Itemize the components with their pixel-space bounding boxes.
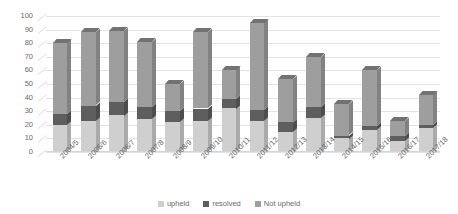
bar-segment-not-upheld[interactable] [222,70,237,99]
bar-group[interactable] [390,16,405,152]
y-axis-tick-label: 50 [25,80,33,88]
bar-segment-resolved[interactable] [222,99,237,109]
bar-segment-face [222,70,237,99]
bar-segment-face [250,110,265,121]
bar-segment-not-upheld[interactable] [250,23,265,110]
bar-segment-side [124,27,128,101]
bar-segment-face [53,114,68,125]
bar-segment-resolved[interactable] [109,102,124,116]
bar-segment-not-upheld[interactable] [419,95,434,125]
bar-segment-resolved[interactable] [53,114,68,125]
bar-segment-resolved[interactable] [137,107,152,119]
bar-segment-not-upheld[interactable] [109,31,124,102]
y-axis-tick-label: 70 [25,53,33,61]
bar-segment-face [165,84,180,111]
bar-segment-not-upheld[interactable] [278,79,293,123]
bar-group[interactable] [334,16,349,152]
bar-group[interactable] [109,16,124,152]
bar-segment-face [419,95,434,125]
bar-segment-side [152,38,156,107]
legend-item[interactable]: resolved [203,199,240,208]
bar-stack [362,16,377,152]
bar-segment-face [278,122,293,132]
bar-stack [137,16,152,152]
y-axis-tick-label: 0 [29,148,33,156]
bar-series-container [46,16,440,152]
legend-swatch [158,201,164,207]
bar-segment-resolved[interactable] [278,122,293,132]
bar-top-cap [278,75,296,79]
bar-segment-not-upheld[interactable] [53,43,68,114]
bar-segment-resolved[interactable] [419,125,434,128]
bar-stack [165,16,180,152]
legend-item[interactable]: Not upheld [255,199,300,208]
bar-segment-not-upheld[interactable] [334,104,349,135]
bar-group[interactable] [193,16,208,152]
bar-segment-face [390,121,405,136]
bar-segment-resolved[interactable] [362,126,377,130]
y-axis-tick-label: 30 [25,107,33,115]
bar-stack [419,16,434,152]
bar-segment-not-upheld[interactable] [390,121,405,136]
bar-stack [278,16,293,152]
bar-segment-side [180,80,184,111]
bar-group[interactable] [362,16,377,152]
bar-segment-side [67,40,71,114]
bar-group[interactable] [137,16,152,152]
bar-segment-face [306,57,321,107]
bar-segment-not-upheld[interactable] [165,84,180,111]
bar-stack [222,16,237,152]
bar-segment-face [334,104,349,135]
bar-segment-not-upheld[interactable] [306,57,321,107]
bar-segment-face [81,106,96,121]
bar-segment-face [278,79,293,123]
bar-segment-face [362,126,377,130]
bar-stack [390,16,405,152]
bar-top-cap [419,91,437,95]
bar-segment-face [137,107,152,119]
y-axis-tick-label: 20 [25,121,33,129]
bar-segment-resolved[interactable] [193,109,208,121]
bar-segment-not-upheld[interactable] [81,32,96,105]
bar-segment-face [306,107,321,118]
legend-label: Not upheld [264,199,300,208]
bar-segment-resolved[interactable] [250,110,265,121]
bar-segment-side [321,53,325,107]
bar-segment-resolved[interactable] [334,136,349,139]
bar-group[interactable] [53,16,68,152]
bar-segment-not-upheld[interactable] [137,42,152,107]
bar-segment-side [236,67,240,99]
bar-segment-resolved[interactable] [165,111,180,122]
bar-segment-face [193,32,208,108]
stacked-bar-chart: 0102030405060708090100 2004/52005/62006/… [0,0,458,214]
bar-group[interactable] [222,16,237,152]
bar-segment-resolved[interactable] [81,106,96,121]
bar-segment-resolved[interactable] [306,107,321,118]
bar-group[interactable] [419,16,434,152]
bar-segment-side [96,29,100,106]
bar-segment-side [433,91,437,125]
legend-item[interactable]: upheld [158,199,190,208]
y-axis-tick-label: 90 [25,26,33,34]
bar-group[interactable] [306,16,321,152]
bar-segment-face [109,31,124,102]
y-axis-tick-label: 40 [25,94,33,102]
bar-segment-side [293,75,297,122]
legend-label: upheld [167,199,190,208]
bar-segment-not-upheld[interactable] [362,70,377,126]
bar-group[interactable] [165,16,180,152]
bar-segment-side [208,29,212,109]
chart-legend: upheldresolvedNot upheld [0,199,458,208]
bar-segment-face [250,23,265,110]
y-axis-tick-label: 60 [25,66,33,74]
bar-group[interactable] [278,16,293,152]
x-axis: 2004/52005/62006/72007/82008/92009/10201… [38,152,440,198]
bar-segment-face [109,102,124,116]
bar-segment-face [53,43,68,114]
y-axis-tick-label: 100 [20,12,33,20]
bar-group[interactable] [81,16,96,152]
bar-segment-face [81,32,96,105]
y-axis-tick-label: 80 [25,39,33,47]
bar-group[interactable] [250,16,265,152]
bar-segment-not-upheld[interactable] [193,32,208,108]
